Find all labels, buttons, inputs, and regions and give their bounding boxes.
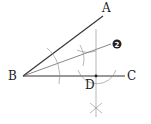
label-b: B bbox=[8, 69, 17, 83]
label-d: D bbox=[85, 78, 95, 92]
ray-ba bbox=[23, 16, 103, 76]
cross-arc-1 bbox=[80, 45, 84, 66]
geometry-diagram: 2 A B C D bbox=[0, 0, 151, 124]
label-a: A bbox=[101, 1, 111, 15]
bisector-ray bbox=[23, 44, 111, 76]
label-c: C bbox=[127, 69, 136, 83]
point-d bbox=[95, 75, 98, 78]
marker-2-text: 2 bbox=[115, 41, 120, 49]
